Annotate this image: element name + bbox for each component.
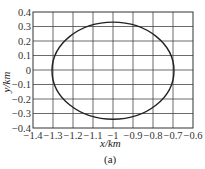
y-tick-label: −0.1 — [12, 79, 31, 90]
y-tick-label: 0.3 — [18, 21, 31, 32]
y-tick-label: 0 — [26, 65, 31, 76]
grid-lines — [33, 12, 193, 128]
y-tick-label: 0.2 — [18, 36, 31, 47]
x-tick-label: −0.9 — [123, 130, 142, 141]
y-tick-label: −0.2 — [12, 94, 31, 105]
x-tick-label: −0.7 — [163, 130, 182, 141]
chart: 0.40.30.20.10−0.1−0.2−0.3−0.4 −1.4−1.3−1… — [0, 0, 205, 169]
x-tick-label: −1.2 — [63, 130, 82, 141]
y-tick-label: −0.3 — [12, 108, 31, 119]
x-tick-label: −0.8 — [143, 130, 162, 141]
x-axis-label: x/km — [99, 137, 121, 149]
y-tick-label: 0.1 — [18, 50, 31, 61]
figure-caption: (a) — [104, 153, 117, 166]
x-tick-label: −0.6 — [183, 130, 202, 141]
y-axis-label: y/km — [0, 72, 12, 94]
y-tick-labels: 0.40.30.20.10−0.1−0.2−0.3−0.4 — [12, 7, 32, 134]
y-tick-label: 0.4 — [18, 7, 32, 18]
x-tick-label: −1.4 — [23, 130, 43, 141]
x-tick-label: −1.3 — [43, 130, 62, 141]
